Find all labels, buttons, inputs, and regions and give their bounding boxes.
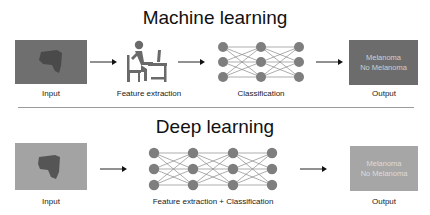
dl-output-box: Melanoma No Melanoma [350,146,418,191]
ml-classification-label: Classification [237,89,284,98]
arrow-right-icon [90,58,120,66]
dl-output-label: Output [372,197,396,206]
output-line-melanoma: Melanoma [350,159,418,168]
ml-output-box: Melanoma No Melanoma [349,40,418,85]
ml-output-label: Output [372,89,396,98]
output-line-melanoma: Melanoma [349,53,418,62]
section-divider [18,107,414,108]
ml-title: Machine learning [0,7,430,29]
person-at-computer-icon [125,40,170,84]
dl-input-image [15,143,87,190]
ml-input-label: Input [42,89,60,98]
dl-title: Deep learning [0,116,430,138]
dl-neural-network-icon [145,146,281,192]
ml-feature-extraction-label: Feature extraction [117,89,181,98]
dl-feature-extraction-classification-label: Feature extraction + Classification [153,197,274,206]
arrow-right-icon [300,165,330,173]
dl-input-label: Input [42,197,60,206]
output-line-no-melanoma: No Melanoma [349,63,418,72]
arrow-right-icon [178,58,208,66]
output-line-no-melanoma: No Melanoma [350,169,418,178]
arrow-right-icon [316,58,346,66]
lesion-shape [15,143,87,190]
ml-neural-network-icon [214,40,308,84]
lesion-shape [15,40,87,84]
ml-input-image [15,40,87,84]
arrow-right-icon [100,165,130,173]
